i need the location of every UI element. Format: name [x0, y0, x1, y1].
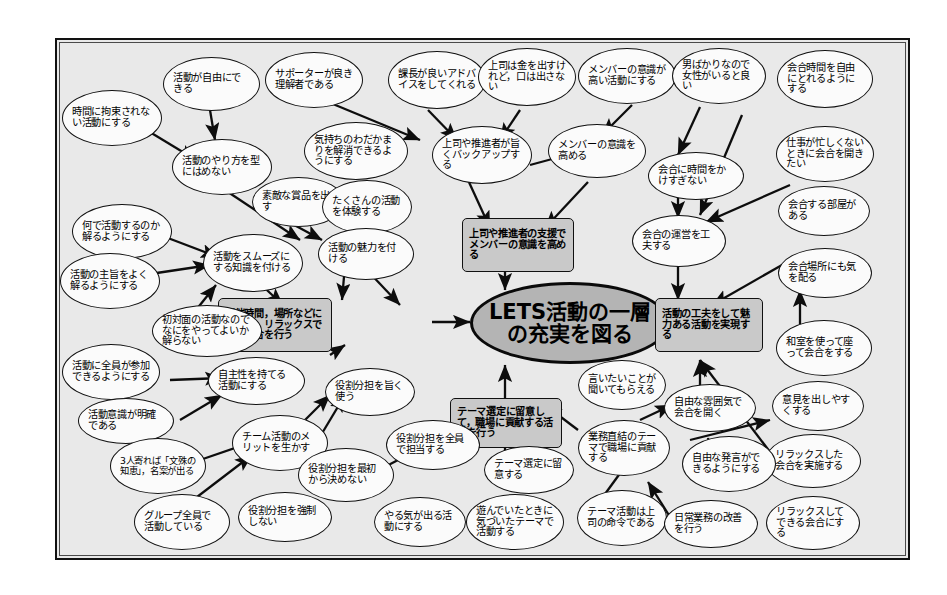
node-n16: メンバーの意識を高める — [548, 124, 646, 178]
node-n17-label: 男ばかりなので女性がいると良い — [673, 60, 765, 92]
node-n31-label: 活動意識が明確である — [79, 410, 173, 432]
node-n35-label: 役割分担を強制しない — [239, 506, 331, 528]
central-node-label: LETS活動の一層の充実を図る — [473, 301, 667, 346]
node-n04-label: 何で活動するのか解るようにする — [73, 221, 171, 243]
node-n25-label: 意見を出しやすくする — [773, 395, 863, 417]
node-n32: 3人寄れば「文殊の知恵」，名案が出る — [110, 438, 206, 494]
node-n06-label: 活動をスムーズにする知識を付ける — [204, 252, 302, 274]
node-n22: 会合の運営を工夫する — [632, 215, 726, 267]
node-n15-label: メンバーの意識が高い活動にする — [579, 65, 675, 87]
node-n07: サポーターが良き理解者である — [265, 52, 363, 108]
node-n12: 課長が良いアドバイスをしてくれる — [388, 51, 486, 109]
node-n25: 意見を出しやすくする — [772, 381, 864, 431]
node-n27-label: リラックスしてできる会合にする — [767, 507, 859, 539]
node-n11-label: 活動の魅力を付ける — [319, 243, 413, 265]
node-n41: 遊んでいたときに気づいたテーマで活動する — [466, 494, 564, 550]
node-n34-label: グループ全員で活動している — [135, 511, 229, 533]
node-n03: 活動のやり方を型にはめない — [172, 139, 272, 195]
node-n08-label: 気持ちのわだかまりを解消できるようにする — [305, 135, 407, 167]
node-n29-label: 活動に全員が参加できるようにする — [63, 361, 159, 383]
node-n14: 上司や推進者が旨くバックアップする — [432, 126, 532, 184]
node-n42-label: テーマ活動は上司の命令である — [578, 507, 666, 529]
node-n35: 役割分担を強制しない — [238, 492, 332, 542]
node-n39-label: やる気が出る活動にする — [375, 511, 465, 533]
node-n07-label: サポーターが良き理解者である — [266, 69, 362, 91]
node-n30-label: 自主性を持てる活動にする — [209, 370, 304, 392]
node-n41-label: 遊んでいたときに気づいたテーマで活動する — [467, 506, 563, 538]
node-n11: 活動の魅力を付ける — [318, 228, 414, 280]
node-n18-label: 会合時間を自由にとれるようにする — [778, 63, 872, 95]
node-n37-label: 役割分担を旨く使う — [326, 381, 414, 403]
node-n37: 役割分担を旨く使う — [325, 368, 415, 416]
diagram-canvas: LETS活動の一層の充実を図る 上司や推進者の支援でメンバーの意識を高める 活動… — [0, 0, 947, 595]
node-n04: 何で活動するのか解るようにする — [72, 204, 172, 259]
node-n22-label: 会合の運営を工夫する — [633, 230, 725, 252]
node-n21-label: 会合する部屋がある — [779, 200, 869, 222]
mid-box-2-label: 活動の工夫をして魅力ある活動を実現する — [656, 309, 762, 341]
node-n23: 会合場所にも気を配る — [778, 248, 872, 298]
node-n17: 男ばかりなので女性がいると良い — [672, 48, 766, 104]
node-n46: 自由な雰囲気で会合を開く — [664, 384, 756, 432]
node-n02: 時間に拘束されない活動にする — [62, 90, 162, 146]
node-n18: 会合時間を自由にとれるようにする — [777, 50, 873, 108]
node-n03-label: 活動のやり方を型にはめない — [173, 156, 271, 178]
node-n36: 役割分担を最初から決めない — [298, 448, 394, 502]
node-n28-label: 初対面の活動なのでなにをやってよいか解らない — [153, 315, 261, 347]
node-n19: 仕事が忙しくないときに会合を開きたい — [776, 126, 874, 182]
node-n20-label: 会合に時間をかけすぎない — [649, 165, 743, 187]
node-n05-label: 活動の主旨をよく解るようにする — [61, 270, 159, 292]
node-n38-label: 役割分担を全員で担当する — [387, 434, 479, 456]
node-n28: 初対面の活動なのでなにをやってよいか解らない — [152, 305, 262, 357]
node-n47-label: 言いたいことが聞いてもらえる — [579, 374, 665, 396]
node-n36-label: 役割分担を最初から決めない — [299, 464, 393, 486]
node-n24: 和室を使って座って会合をする — [776, 320, 872, 376]
node-n05: 活動の主旨をよく解るようにする — [60, 253, 160, 309]
node-n14-label: 上司や推進者が旨くバックアップする — [433, 139, 531, 171]
node-n08: 気持ちのわだかまりを解消できるようにする — [304, 122, 408, 180]
node-n40-label: テーマ選定に留意する — [485, 459, 573, 481]
node-n47: 言いたいことが聞いてもらえる — [578, 360, 666, 410]
node-n10-label: たくさんの活動を体験する — [323, 196, 411, 218]
node-n20: 会合に時間をかけすぎない — [648, 152, 744, 200]
node-n19-label: 仕事が忙しくないときに会合を開きたい — [777, 138, 873, 170]
node-n01: 活動が自由にできる — [163, 57, 260, 111]
mid-box-2: 活動の工夫をして魅力ある活動を実現する — [655, 298, 763, 352]
node-n32-label: 3人寄れば「文殊の知恵」，名案が出る — [111, 456, 205, 476]
central-node: LETS活動の一層の充実を図る — [470, 282, 670, 364]
node-n33-label: チーム活動のメリットを生かす — [233, 432, 327, 454]
node-n44-label: 日常業務の改善を行う — [665, 513, 757, 535]
node-n24-label: 和室を使って座って会合をする — [777, 337, 871, 359]
node-n13: 上司は金を出すけれど，口は出さない — [478, 48, 576, 106]
node-n12-label: 課長が良いアドバイスをしてくれる — [389, 69, 485, 91]
node-n01-label: 活動が自由にできる — [164, 73, 259, 95]
node-n43-label: 業務直結のテーマで職場に貢献する — [579, 432, 669, 464]
node-n45: 自由な発言ができるようにする — [682, 436, 776, 492]
node-n29: 活動に全員が参加できるようにする — [62, 344, 160, 400]
node-n46-label: 自由な雰囲気で会合を開く — [665, 397, 755, 419]
mid-box-1: 上司や推進者の支援でメンバーの意識を高める — [462, 218, 574, 272]
node-n34: グループ全員で活動している — [134, 494, 230, 550]
node-n13-label: 上司は金を出すけれど，口は出さない — [479, 61, 575, 93]
node-n16-label: メンバーの意識を高める — [549, 140, 645, 162]
node-n21: 会合する部屋がある — [778, 186, 870, 236]
node-n38: 役割分担を全員で担当する — [386, 420, 480, 470]
node-n15: メンバーの意識が高い活動にする — [578, 48, 676, 104]
node-n06: 活動をスムーズにする知識を付ける — [203, 234, 303, 292]
mid-box-1-label: 上司や推進者の支援でメンバーの意識を高める — [463, 229, 573, 261]
node-n42: テーマ活動は上司の命令である — [577, 490, 667, 546]
node-n26: リラックスした会合を実施する — [765, 434, 861, 488]
node-n02-label: 時間に拘束されない活動にする — [63, 107, 161, 129]
node-n10: たくさんの活動を体験する — [322, 180, 412, 234]
node-n43: 業務直結のテーマで職場に貢献する — [578, 420, 670, 476]
node-n39: やる気が出る活動にする — [374, 497, 466, 547]
node-n26-label: リラックスした会合を実施する — [766, 450, 860, 472]
node-n27: リラックスしてできる会合にする — [766, 496, 860, 550]
node-n23-label: 会合場所にも気を配る — [779, 262, 871, 284]
node-n30: 自主性を持てる活動にする — [208, 357, 305, 405]
node-n40: テーマ選定に留意する — [484, 446, 574, 494]
node-n45-label: 自由な発言ができるようにする — [683, 453, 775, 475]
node-n44: 日常業務の改善を行う — [664, 500, 758, 548]
